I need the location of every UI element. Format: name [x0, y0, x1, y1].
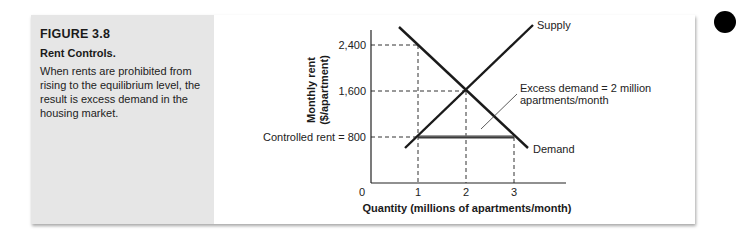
excess-demand-label-line1: Excess demand = 2 million	[520, 82, 651, 94]
x-tick-2: 2	[463, 186, 469, 198]
x-tick-0: 0	[359, 186, 365, 198]
x-tick-1: 1	[415, 186, 421, 198]
margin-bullet-icon	[714, 11, 736, 33]
excess-demand-label-line2: apartments/month	[520, 94, 609, 106]
y-tick-1600: 1,600	[338, 85, 366, 97]
y-tick-2400: 2,400	[338, 39, 366, 51]
x-tick-3: 3	[511, 186, 517, 198]
x-axis-title: Quantity (millions of apartments/month)	[362, 202, 571, 214]
supply-label: Supply	[537, 19, 571, 31]
y-axis-title-line1: Monthly rent	[305, 57, 317, 123]
supply-curve	[405, 25, 533, 148]
axes	[371, 30, 566, 183]
y-axis-title-line2: ($/apartment)	[318, 55, 330, 125]
excess-demand-pointer	[481, 94, 517, 129]
demand-label: Demand	[533, 143, 575, 155]
y-tick-800: Controlled rent = 800	[263, 131, 366, 143]
